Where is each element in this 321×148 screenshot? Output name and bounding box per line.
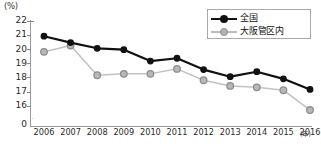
y-axis-tick-label: 22 <box>11 16 27 25</box>
legend-item-osaka[interactable]: 大阪管区内 <box>211 25 307 38</box>
data-point[interactable] <box>121 71 128 78</box>
data-point[interactable] <box>227 83 234 90</box>
legend-label-zenkoku: 全国 <box>240 13 258 24</box>
y-axis-unit-label: (%) <box>4 2 18 11</box>
x-axis-tick-label: 2010 <box>135 128 165 137</box>
data-point[interactable] <box>307 86 314 93</box>
y-axis-tick-label: 16 <box>11 101 27 110</box>
x-axis-tick-label: 2015 <box>268 128 298 137</box>
legend-marker-open-circle-icon <box>211 26 237 37</box>
data-point[interactable] <box>200 66 207 73</box>
x-axis-unit-label: (年) <box>300 130 311 137</box>
data-point[interactable] <box>174 55 181 62</box>
data-point[interactable] <box>147 71 154 78</box>
data-point[interactable] <box>94 72 101 79</box>
legend-marker-filled-circle-icon <box>211 13 237 24</box>
y-axis-tick-label: 20 <box>11 45 27 54</box>
series-line-zenkoku <box>44 36 310 89</box>
chart-container: (%) 222120191817160 20062007200820092010… <box>0 0 321 148</box>
data-point[interactable] <box>254 84 261 91</box>
x-axis-tick-label: 2011 <box>162 128 192 137</box>
legend-label-osaka: 大阪管区内 <box>240 26 284 37</box>
y-axis-tick-label: 21 <box>11 30 27 39</box>
data-point[interactable] <box>280 87 287 94</box>
data-point[interactable] <box>200 77 207 84</box>
x-axis-tick-label: 2007 <box>56 128 86 137</box>
x-axis-tick-label: 2014 <box>242 128 272 137</box>
data-point[interactable] <box>120 46 127 53</box>
data-point[interactable] <box>307 107 314 114</box>
data-point[interactable] <box>174 66 181 73</box>
clipped-title <box>20 0 210 7</box>
data-point[interactable] <box>253 68 260 75</box>
x-axis-tick-label: 2012 <box>189 128 219 137</box>
data-point[interactable] <box>94 45 101 52</box>
y-axis-break-icon <box>24 110 34 119</box>
data-point[interactable] <box>147 58 154 65</box>
x-axis-tick-label: 2009 <box>109 128 139 137</box>
data-point[interactable] <box>67 39 74 46</box>
data-point[interactable] <box>41 33 48 40</box>
y-axis-tick-label: 18 <box>11 73 27 82</box>
y-axis-tick-label: 0 <box>11 120 27 129</box>
chart-legend: 全国 大阪管区内 <box>207 9 311 39</box>
data-point[interactable] <box>41 49 48 56</box>
data-point[interactable] <box>227 73 234 80</box>
x-axis-tick-label: 2013 <box>215 128 245 137</box>
data-point[interactable] <box>280 75 287 82</box>
x-axis-tick-label: 2008 <box>82 128 112 137</box>
legend-item-zenkoku[interactable]: 全国 <box>211 12 307 25</box>
x-axis-tick-label: 2006 <box>29 128 59 137</box>
y-axis-tick-label: 17 <box>11 87 27 96</box>
y-axis-tick-label: 19 <box>11 59 27 68</box>
